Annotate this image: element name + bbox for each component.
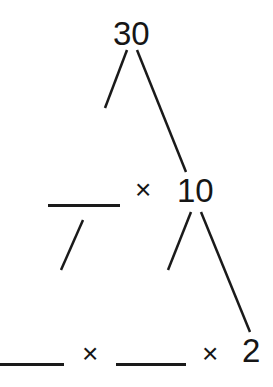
multiply-sign-middle: ×	[135, 176, 151, 204]
edge-10-2	[201, 212, 250, 332]
edge-30-left	[105, 50, 127, 108]
multiply-sign-bottom-1: ×	[82, 340, 98, 368]
node-10: 10	[177, 174, 214, 207]
edge-30-10	[137, 50, 186, 172]
blank-factor-bottom-2	[116, 363, 186, 366]
blank-factor-middle	[48, 204, 120, 207]
edge-blank-left	[61, 220, 83, 270]
blank-factor-bottom-1	[0, 363, 64, 366]
edge-10-left	[168, 212, 191, 270]
root-node-30: 30	[113, 17, 150, 50]
node-2: 2	[242, 334, 260, 367]
multiply-sign-bottom-2: ×	[202, 340, 218, 368]
